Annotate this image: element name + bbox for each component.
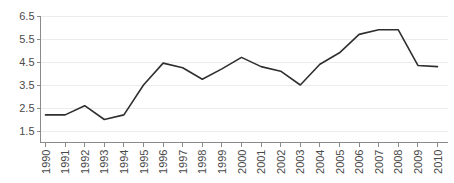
y-tick-labels: 1.52.53.54.55.56.5 bbox=[19, 10, 34, 137]
y-tick-label: 6.5 bbox=[19, 10, 34, 22]
series-line-series-1 bbox=[46, 30, 438, 120]
y-tick-label: 2.5 bbox=[19, 102, 34, 114]
x-tick-label: 2006 bbox=[353, 150, 365, 174]
gridlines bbox=[41, 16, 448, 131]
x-tick-label: 2009 bbox=[412, 150, 424, 174]
y-tick-label: 4.5 bbox=[19, 56, 34, 68]
x-tick-label: 1994 bbox=[118, 150, 130, 174]
x-tick-label: 1991 bbox=[59, 150, 71, 174]
y-tick-label: 5.5 bbox=[19, 33, 34, 45]
x-tick-label: 1996 bbox=[157, 150, 169, 174]
x-tick-label: 1999 bbox=[216, 150, 228, 174]
y-axis bbox=[37, 16, 41, 143]
x-tick-label: 1995 bbox=[138, 150, 150, 174]
x-tick-label: 2001 bbox=[255, 150, 267, 174]
x-tick-label: 2003 bbox=[294, 150, 306, 174]
x-tick-label: 1998 bbox=[196, 150, 208, 174]
x-tick-label: 2000 bbox=[236, 150, 248, 174]
x-tick-labels: 1990199119921993199419951996199719981999… bbox=[40, 150, 444, 174]
y-tick-label: 1.5 bbox=[19, 125, 34, 137]
x-tick-label: 1997 bbox=[177, 150, 189, 174]
x-tick-label: 2008 bbox=[392, 150, 404, 174]
data-series bbox=[46, 30, 438, 120]
x-tick-label: 1993 bbox=[98, 150, 110, 174]
x-tick-label: 2010 bbox=[432, 150, 444, 174]
chart-canvas: 1.52.53.54.55.56.5 199019911992199319941… bbox=[0, 0, 454, 183]
x-tick-label: 2005 bbox=[334, 150, 346, 174]
x-tick-label: 2002 bbox=[275, 150, 287, 174]
x-tick-label: 1990 bbox=[40, 150, 52, 174]
line-chart: 1.52.53.54.55.56.5 199019911992199319941… bbox=[0, 0, 454, 183]
x-tick-label: 2007 bbox=[373, 150, 385, 174]
y-tick-label: 3.5 bbox=[19, 79, 34, 91]
x-tick-label: 1992 bbox=[79, 150, 91, 174]
x-axis bbox=[41, 143, 448, 147]
x-tick-label: 2004 bbox=[314, 150, 326, 174]
